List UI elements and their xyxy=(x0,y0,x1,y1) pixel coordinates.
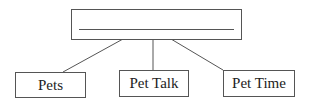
connector-root-to-pets xyxy=(63,39,123,72)
child-node-pet-talk: Pet Talk xyxy=(119,70,189,97)
child-node-label: Pet Talk xyxy=(129,75,178,92)
root-node-box xyxy=(71,9,242,40)
child-node-label: Pets xyxy=(38,77,63,94)
child-node-pet-time: Pet Time xyxy=(223,70,295,97)
child-node-pets: Pets xyxy=(15,72,86,98)
root-blank-answer-line xyxy=(79,29,234,30)
child-node-label: Pet Time xyxy=(232,75,286,92)
connector-root-to-pet-time xyxy=(171,39,223,70)
